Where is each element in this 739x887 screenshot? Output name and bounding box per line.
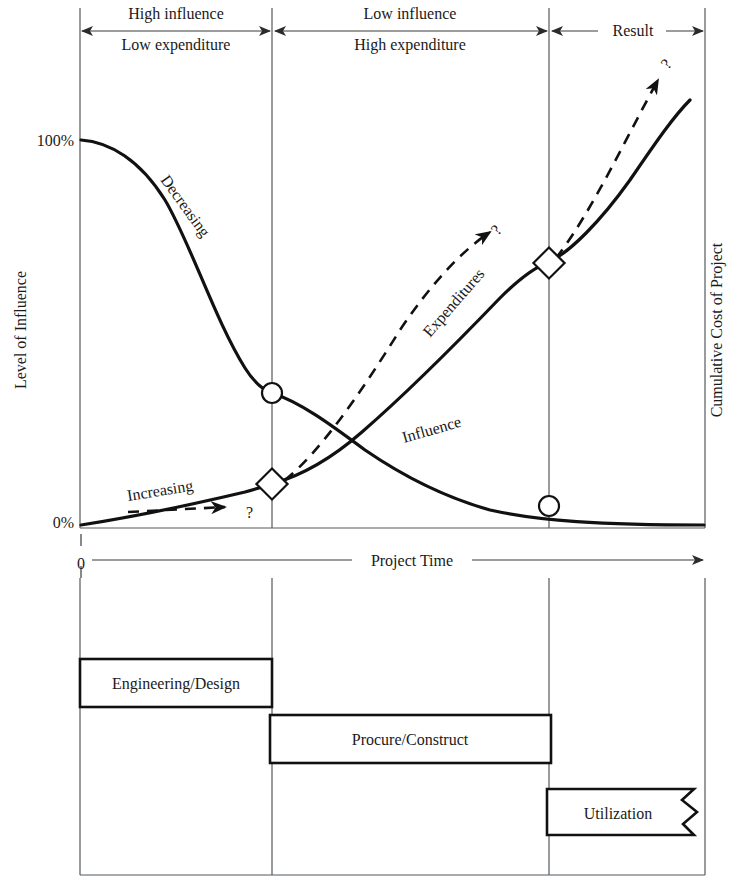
band-high-influence-line2: Low expenditure <box>122 36 231 54</box>
influence-phase3-node <box>539 496 559 516</box>
y-tick-100: 100% <box>37 132 74 149</box>
band-low-influence-line1: Low influence <box>364 5 457 22</box>
influence-cost-figure: High influence Low expenditure Low influ… <box>0 0 739 887</box>
expenditure-phase1-node <box>256 468 287 499</box>
project-time-axis: 0 Project Time <box>77 534 703 578</box>
phase-bar-engineering-design[interactable]: Engineering/Design <box>80 659 272 707</box>
early-projection-question-mark: ? <box>246 504 253 521</box>
upper-plot-frame <box>80 8 705 528</box>
bar-engineering-design-label: Engineering/Design <box>112 675 240 693</box>
band-headers: High influence Low expenditure Low influ… <box>82 5 703 54</box>
band-result-line1: Result <box>613 22 654 39</box>
expenditure-curve-end-label: Expenditures <box>419 265 488 341</box>
final-expenditure-projection <box>556 80 658 258</box>
expenditure-curve <box>81 100 690 525</box>
late-expenditure-projection <box>285 232 490 480</box>
bar-utilization-label: Utilization <box>584 805 652 822</box>
band-high-influence-line1: High influence <box>128 5 224 23</box>
time-axis-origin-label: 0 <box>77 555 85 572</box>
influence-curve-start-label: Decreasing <box>157 172 214 241</box>
phase-bar-procure-construct[interactable]: Procure/Construct <box>270 715 551 763</box>
bar-procure-construct-label: Procure/Construct <box>352 731 469 748</box>
band-low-influence-line2: High expenditure <box>354 36 466 54</box>
influence-phase1-node <box>262 383 282 403</box>
final-projection-question-mark: ? <box>657 56 675 72</box>
time-axis-label: Project Time <box>371 552 453 570</box>
phase-bar-utilization[interactable]: Utilization <box>547 789 697 835</box>
influence-curve-end-label: Influence <box>400 413 463 446</box>
late-projection-question-mark: ? <box>487 222 505 238</box>
y-tick-0: 0% <box>53 514 74 531</box>
left-axis-title: Level of Influence <box>12 271 29 389</box>
right-axis-title: Cumulative Cost of Project <box>708 242 726 417</box>
expenditure-curve-start-label: Increasing <box>126 477 195 505</box>
